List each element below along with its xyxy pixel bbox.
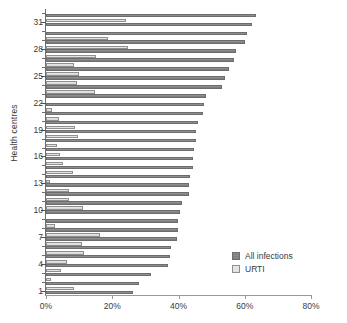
y-tick-mark: [42, 85, 46, 86]
bar-all-infections: [46, 192, 189, 195]
bar-all-infections: [46, 32, 247, 35]
y-tick-label: 10: [34, 205, 43, 215]
bar-all-infections: [46, 237, 177, 240]
chart-figure: Health centres 1471013161922252831 0%20%…: [0, 0, 347, 323]
x-tick-mark: [179, 295, 180, 299]
y-tick-label: 4: [38, 259, 43, 269]
bar-all-infections: [46, 175, 190, 178]
bar-all-infections: [46, 121, 198, 124]
bar-all-infections: [46, 273, 151, 276]
bar-all-infections: [46, 103, 204, 106]
y-axis-title: Health centres: [9, 78, 19, 188]
bar-all-infections: [46, 85, 222, 88]
y-tick-mark: [42, 192, 46, 193]
x-tick-mark: [46, 295, 47, 299]
y-tick-mark: [42, 40, 46, 41]
bar-all-infections: [46, 210, 180, 213]
y-tick-mark: [42, 255, 46, 256]
x-tick-mark: [311, 295, 312, 299]
x-tick-mark: [245, 295, 246, 299]
x-tick-label: 40%: [170, 301, 187, 311]
bar-all-infections: [46, 49, 236, 52]
y-tick-label: 16: [34, 151, 43, 161]
y-tick-label: 22: [34, 98, 43, 108]
y-tick-label: 13: [34, 178, 43, 188]
y-tick-mark: [42, 165, 46, 166]
y-tick-mark: [42, 201, 46, 202]
y-tick-mark: [42, 282, 46, 283]
bar-all-infections: [46, 58, 234, 61]
x-tick-label: 20%: [104, 301, 121, 311]
y-tick-mark: [42, 148, 46, 149]
y-tick-label: 28: [34, 44, 43, 54]
bar-all-infections: [46, 201, 182, 204]
y-tick-mark: [42, 228, 46, 229]
y-tick-label: 1: [38, 286, 43, 296]
bar-all-infections: [46, 40, 245, 43]
chart-legend: All infectionsURTI: [232, 251, 293, 277]
y-tick-mark: [42, 273, 46, 274]
bar-all-infections: [46, 183, 189, 186]
bar-all-infections: [46, 255, 170, 258]
y-tick-label: 7: [38, 232, 43, 242]
x-tick-label: 80%: [302, 301, 319, 311]
y-tick-mark: [42, 112, 46, 113]
legend-label: URTI: [245, 264, 265, 274]
bar-all-infections: [46, 112, 203, 115]
bar-all-infections: [46, 76, 225, 79]
bar-all-infections: [46, 264, 168, 267]
legend-item: All infections: [232, 251, 293, 261]
legend-swatch-icon: [232, 252, 240, 260]
bar-all-infections: [46, 14, 256, 17]
bar-all-infections: [46, 23, 252, 26]
y-tick-label: 31: [34, 17, 43, 27]
x-tick-label: 60%: [236, 301, 253, 311]
legend-label: All infections: [245, 251, 293, 261]
bar-all-infections: [46, 67, 229, 70]
bar-all-infections: [46, 228, 178, 231]
bar-all-infections: [46, 130, 196, 133]
y-tick-mark: [42, 219, 46, 220]
bar-all-infections: [46, 157, 193, 160]
bar-all-infections: [46, 94, 206, 97]
y-tick-mark: [42, 139, 46, 140]
x-tick-mark: [112, 295, 113, 299]
y-tick-mark: [42, 13, 46, 14]
bar-all-infections: [46, 139, 196, 142]
y-tick-mark: [42, 246, 46, 247]
bar-all-infections: [46, 246, 171, 249]
legend-item: URTI: [232, 264, 293, 274]
y-tick-mark: [42, 58, 46, 59]
y-tick-mark: [42, 174, 46, 175]
y-tick-mark: [42, 67, 46, 68]
x-tick-label: 0%: [40, 301, 52, 311]
bar-all-infections: [46, 291, 133, 294]
y-tick-label: 19: [34, 125, 43, 135]
bar-all-infections: [46, 166, 193, 169]
y-tick-mark: [42, 31, 46, 32]
bar-all-infections: [46, 148, 194, 151]
legend-swatch-icon: [232, 265, 240, 273]
y-tick-label: 25: [34, 71, 43, 81]
bar-all-infections: [46, 282, 139, 285]
y-tick-mark: [42, 94, 46, 95]
y-tick-mark: [42, 121, 46, 122]
bar-all-infections: [46, 219, 178, 222]
